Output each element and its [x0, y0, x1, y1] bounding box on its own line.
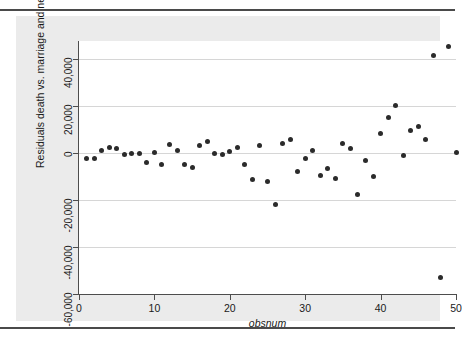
data-point	[265, 179, 270, 184]
data-point	[333, 176, 338, 181]
x-axis-tick-label: 10	[149, 302, 161, 314]
data-point	[84, 156, 89, 161]
data-point	[303, 156, 308, 161]
data-point	[348, 146, 353, 151]
y-axis-tick	[73, 200, 78, 201]
data-point	[423, 137, 428, 142]
y-axis-title: Residuals death vs. marriage and nevada_…	[34, 0, 46, 168]
x-axis-tick	[381, 295, 382, 300]
data-point	[401, 153, 406, 158]
y-axis-tick	[73, 294, 78, 295]
y-axis-tick-label: -20,000	[63, 199, 74, 251]
x-axis-tick-label: 0	[76, 302, 82, 314]
y-axis-tick	[73, 153, 78, 154]
data-point	[378, 131, 383, 136]
data-point	[175, 148, 180, 153]
plot-area	[79, 41, 456, 294]
data-point	[295, 169, 300, 174]
x-axis-tick	[79, 295, 80, 300]
data-point	[107, 145, 112, 150]
gridline	[79, 59, 456, 60]
x-axis-line	[78, 294, 457, 295]
data-point	[205, 139, 210, 144]
x-axis-tick	[456, 295, 457, 300]
data-point	[371, 174, 376, 179]
data-point	[129, 151, 134, 156]
data-point	[190, 165, 195, 170]
data-point	[438, 275, 443, 280]
gridline	[79, 153, 456, 154]
x-axis-tick	[305, 295, 306, 300]
x-axis-tick-label: 20	[224, 302, 236, 314]
data-point	[340, 141, 345, 146]
data-point	[122, 152, 127, 157]
data-point	[167, 142, 172, 147]
data-point	[257, 143, 262, 148]
x-axis-tick	[230, 295, 231, 300]
data-point	[431, 53, 436, 58]
data-point	[137, 151, 142, 156]
y-axis-tick-label: 0	[63, 152, 74, 204]
data-point	[92, 156, 97, 161]
x-axis-tick	[154, 295, 155, 300]
y-axis-tick-label: 40,000	[63, 58, 74, 110]
x-axis-title: obsnum	[79, 317, 456, 329]
x-axis-tick-label: 40	[375, 302, 387, 314]
y-axis-tick	[73, 247, 78, 248]
data-point	[363, 158, 368, 163]
data-point	[152, 150, 157, 155]
x-axis-tick-label: 30	[299, 302, 311, 314]
y-axis-tick-label: -60,000	[63, 293, 74, 340]
data-point	[416, 124, 421, 129]
data-point	[318, 173, 323, 178]
data-point	[325, 166, 330, 171]
y-axis-tick-label: 20,000	[63, 105, 74, 157]
data-point	[114, 146, 119, 151]
data-point	[182, 162, 187, 167]
data-point	[159, 162, 164, 167]
data-point	[235, 145, 240, 150]
data-point	[288, 137, 293, 142]
data-point	[386, 115, 391, 120]
data-point	[197, 143, 202, 148]
data-point	[393, 103, 398, 108]
y-axis-tick	[73, 59, 78, 60]
data-point	[273, 202, 278, 207]
data-point	[280, 141, 285, 146]
y-axis-tick	[73, 106, 78, 107]
data-point	[454, 150, 459, 155]
data-point	[250, 177, 255, 182]
gridline	[79, 200, 456, 201]
data-point	[408, 128, 413, 133]
y-axis-tick-label: -40,000	[63, 246, 74, 298]
data-point	[242, 162, 247, 167]
graph-region: Residuals death vs. marriage and nevada_…	[16, 16, 440, 321]
data-point	[355, 192, 360, 197]
data-point	[212, 151, 217, 156]
data-point	[446, 44, 451, 49]
gridline	[79, 247, 456, 248]
x-axis-tick-label: 50	[450, 302, 462, 314]
data-point	[144, 160, 149, 165]
gridline	[79, 106, 456, 107]
data-point	[99, 148, 104, 153]
data-point	[220, 152, 225, 157]
page-rule-top	[0, 9, 455, 11]
